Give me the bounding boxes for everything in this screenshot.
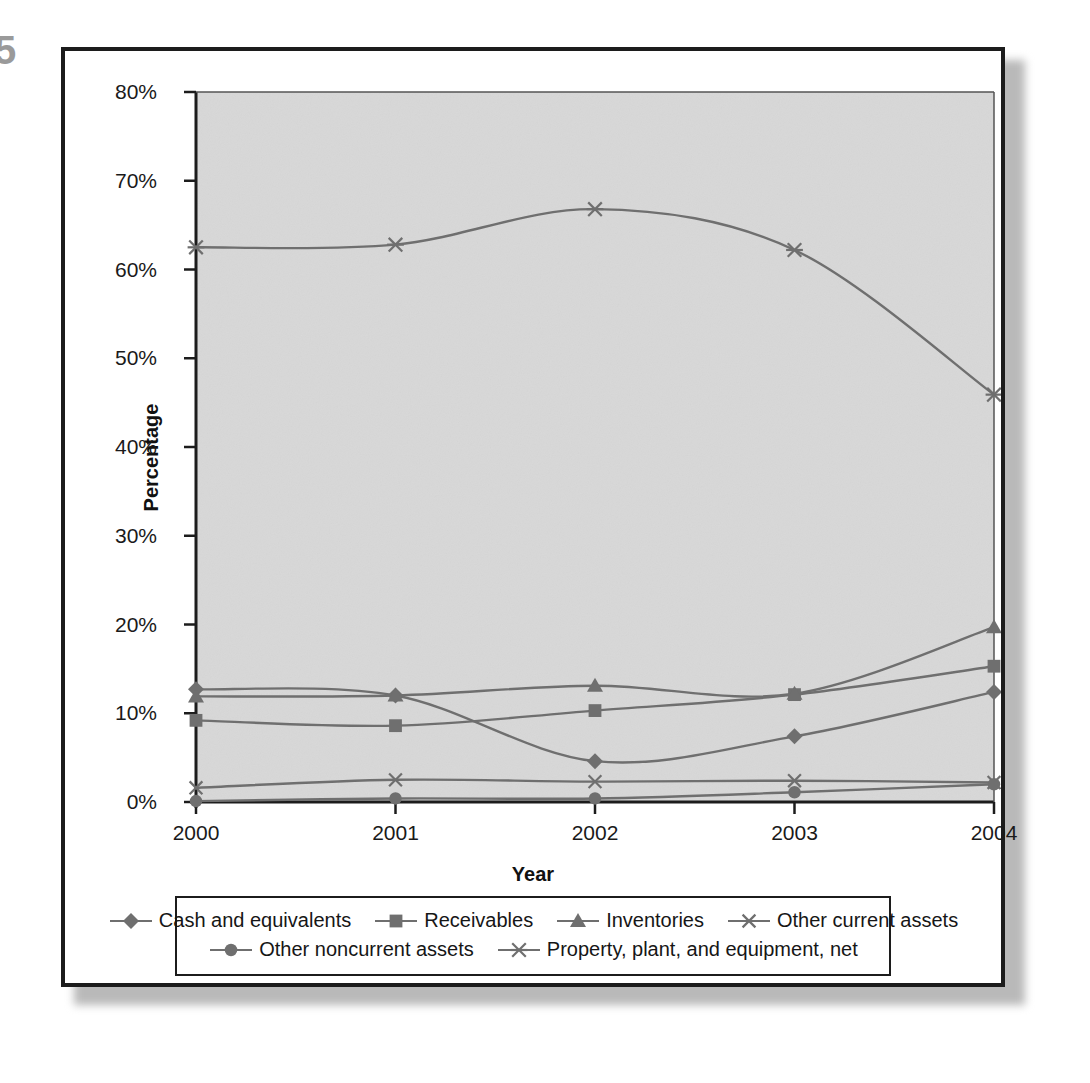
legend-item-label: Receivables bbox=[424, 909, 533, 932]
legend-item-label: Inventories bbox=[606, 909, 704, 932]
cross-marker-icon bbox=[726, 911, 772, 931]
data-point-marker bbox=[190, 795, 202, 807]
data-point-marker bbox=[988, 778, 1000, 790]
x-tick-label: 2003 bbox=[735, 821, 855, 845]
y-tick-label: 0% bbox=[83, 790, 157, 814]
legend-item: Receivables bbox=[373, 909, 533, 932]
legend-row: Cash and equivalentsReceivablesInventori… bbox=[177, 906, 889, 935]
legend-item: Other noncurrent assets bbox=[208, 938, 474, 961]
legend-item-label: Cash and equivalents bbox=[159, 909, 351, 932]
y-tick-label: 80% bbox=[83, 80, 157, 104]
legend-item-label: Other current assets bbox=[777, 909, 958, 932]
circle-marker-icon bbox=[208, 940, 254, 960]
diamond-marker-icon bbox=[108, 911, 154, 931]
data-point-marker bbox=[389, 719, 402, 732]
page-number-artifact: 5 bbox=[0, 30, 15, 70]
y-tick-label: 40% bbox=[83, 435, 157, 459]
y-tick-label: 60% bbox=[83, 258, 157, 282]
triangle-marker-icon bbox=[555, 911, 601, 931]
legend-item-label: Other noncurrent assets bbox=[259, 938, 474, 961]
data-point-marker bbox=[788, 786, 800, 798]
x-tick-label: 2002 bbox=[535, 821, 655, 845]
data-point-marker bbox=[988, 660, 1001, 673]
y-tick-label: 20% bbox=[83, 613, 157, 637]
y-tick-label: 70% bbox=[83, 169, 157, 193]
legend-item: Inventories bbox=[555, 909, 704, 932]
data-point-marker bbox=[390, 914, 403, 927]
data-point-marker bbox=[225, 943, 237, 955]
y-tick-label: 50% bbox=[83, 346, 157, 370]
data-point-marker bbox=[389, 792, 401, 804]
chart-legend: Cash and equivalentsReceivablesInventori… bbox=[175, 896, 891, 976]
asterisk-marker-icon bbox=[496, 940, 542, 960]
x-tick-label: 2000 bbox=[136, 821, 256, 845]
x-axis-title: Year bbox=[65, 863, 1001, 886]
data-point-marker bbox=[589, 792, 601, 804]
data-point-marker bbox=[190, 714, 203, 727]
figure-frame: Percentage Year 0%10%20%30%40%50%60%70%8… bbox=[61, 47, 1005, 987]
data-point-marker bbox=[589, 704, 602, 717]
legend-item: Other current assets bbox=[726, 909, 958, 932]
y-tick-label: 10% bbox=[83, 701, 157, 725]
y-tick-label: 30% bbox=[83, 524, 157, 548]
data-point-marker bbox=[123, 913, 139, 929]
square-marker-icon bbox=[373, 911, 419, 931]
data-point-marker bbox=[510, 943, 527, 957]
chart-area: Percentage Year 0%10%20%30%40%50%60%70%8… bbox=[65, 51, 1001, 983]
x-tick-label: 2004 bbox=[934, 821, 1054, 845]
legend-item: Cash and equivalents bbox=[108, 909, 351, 932]
legend-item: Property, plant, and equipment, net bbox=[496, 938, 858, 961]
legend-item-label: Property, plant, and equipment, net bbox=[547, 938, 858, 961]
legend-row: Other noncurrent assetsProperty, plant, … bbox=[177, 935, 889, 964]
x-tick-label: 2001 bbox=[336, 821, 456, 845]
